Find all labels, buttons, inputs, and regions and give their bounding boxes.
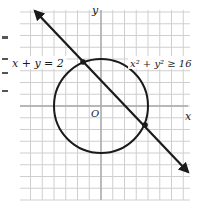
page-edge-mark [2,90,8,92]
page-edge-mark [2,72,8,74]
origin-label: O [91,108,99,119]
line-equation-label: x + y = 2 [12,57,64,70]
circle-inequality-label: x² + y² ≥ 16 [130,58,192,69]
page-edge-mark [2,36,8,39]
page-edge-mark [2,58,8,60]
graph-figure: x + y = 2 x² + y² ≥ 16 y x O [0,0,202,213]
intersection-point-lower [142,122,148,128]
intersection-point-upper [80,59,86,65]
grid-lines [20,10,190,200]
x-axis-label: x [185,110,192,123]
y-axis-label: y [91,4,99,17]
